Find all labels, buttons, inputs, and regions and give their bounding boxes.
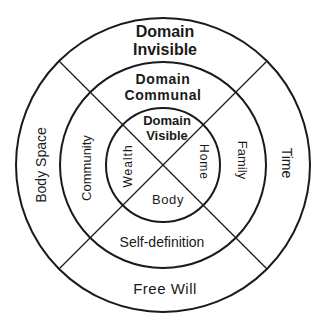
outer-bottom-label: Free Will [133, 280, 197, 297]
inner-top-title-line2: Visible [146, 128, 188, 143]
domain-diagram: Domain Invisible Body Space Time Free Wi… [0, 0, 326, 330]
middle-top-title-line1: Domain [136, 71, 191, 87]
outer-top-title-line1: Domain [136, 23, 195, 40]
inner-bottom-label: Body [152, 192, 184, 207]
outer-top-title-line2: Invisible [133, 41, 197, 58]
inner-top-title-line1: Domain [143, 113, 191, 128]
outer-left-label: Body Space [33, 127, 49, 203]
inner-left-label: Wealth [121, 144, 135, 187]
middle-top-title-line2: Communal [124, 87, 201, 103]
middle-right-label: Family [235, 141, 250, 180]
inner-right-label: Home [197, 144, 211, 180]
outer-right-label: Time [279, 148, 295, 179]
middle-left-label: Community [79, 135, 94, 201]
middle-bottom-label: Self-definition [120, 234, 205, 250]
